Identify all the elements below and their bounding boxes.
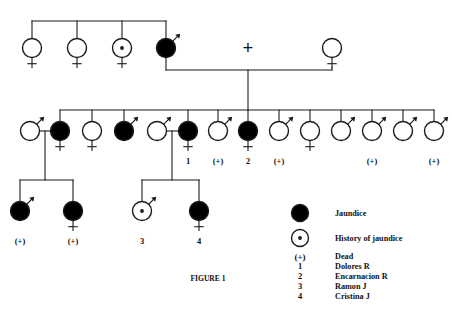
pedigree-diagram: +1(+)2(+)(+)(+)(+)(+)34JaundiceHistory o… <box>0 0 452 309</box>
node-label-g2-08: 2 <box>246 156 250 166</box>
node-label-g2-09: (+) <box>274 156 285 166</box>
legend-label-history-of-jaundice: History of jaundice <box>335 234 403 243</box>
pedigree-node-g3-4[interactable] <box>190 202 209 221</box>
node-label-g3-3: 3 <box>140 236 144 246</box>
node-label-g2-12: (+) <box>367 156 378 166</box>
node-label-g3-1: (+) <box>15 236 26 246</box>
legend-symbol-person-3: 3 <box>298 281 302 291</box>
symbol-affected <box>190 202 209 221</box>
node-label-g3-4: 4 <box>197 236 202 246</box>
figure-caption: FIGURE 1 <box>190 274 225 283</box>
symbol-unaffected <box>301 122 320 141</box>
legend-symbol-jaundice <box>292 205 309 222</box>
legend-label-person-3: Ramon J <box>335 282 367 291</box>
pedigree-node-g1-5[interactable] <box>323 39 342 58</box>
legend-symbol-history-dot <box>298 236 302 240</box>
pedigree-node-g1-1[interactable] <box>23 39 42 58</box>
pedigree-node-g1-2[interactable] <box>68 39 87 58</box>
node-label-g3-2: (+) <box>68 236 79 246</box>
legend-label-person-2: Encarnacion R <box>335 272 388 281</box>
pedigree-node-g1-3[interactable] <box>113 39 132 58</box>
legend-label-person-1: Dolores R <box>335 262 370 271</box>
legend-symbol-person-2: 2 <box>298 271 302 281</box>
history-dot <box>140 209 144 213</box>
legend-symbol-person-1: 1 <box>298 261 302 271</box>
symbol-affected <box>179 122 198 141</box>
pedigree-node-g2-10[interactable] <box>301 122 320 141</box>
node-label-g2-14: (+) <box>429 156 440 166</box>
symbol-unaffected <box>23 39 42 58</box>
pedigree-node-g2-02[interactable] <box>51 122 70 141</box>
symbol-affected <box>239 122 258 141</box>
symbol-affected <box>64 202 83 221</box>
pedigree-node-g3-2[interactable] <box>64 202 83 221</box>
symbol-unaffected <box>68 39 87 58</box>
node-label-g2-07: (+) <box>213 156 224 166</box>
symbol-unaffected <box>323 39 342 58</box>
pedigree-node-g2-08[interactable] <box>239 122 258 141</box>
pedigree-node-g2-06[interactable] <box>179 122 198 141</box>
symbol-affected <box>51 122 70 141</box>
history-dot <box>120 46 124 50</box>
legend-symbol-dead: (+) <box>294 252 305 262</box>
node-label-g2-06: 1 <box>186 156 190 166</box>
pedigree-chart: +1(+)2(+)(+)(+)(+)(+)34JaundiceHistory o… <box>0 0 452 309</box>
legend-label-dead: Dead <box>335 252 354 261</box>
mating-plus-symbol: + <box>243 37 254 58</box>
pedigree-node-g2-03[interactable] <box>83 122 102 141</box>
legend-symbol-person-4: 4 <box>298 291 303 301</box>
symbol-unaffected <box>83 122 102 141</box>
legend-label-person-4: Cristina J <box>335 292 370 301</box>
legend-label-jaundice: Jaundice <box>335 209 367 218</box>
